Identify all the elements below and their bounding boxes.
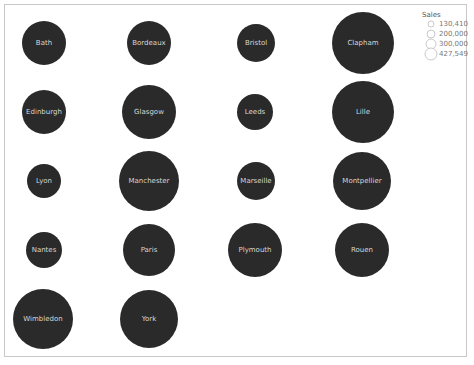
- bubble-label: Glasgow: [134, 108, 164, 116]
- legend-item-label: 427,549: [439, 50, 468, 58]
- bubble-label: Leeds: [245, 108, 266, 116]
- legend-title: Sales: [422, 11, 441, 19]
- bubble-label: Wimbledon: [23, 315, 62, 323]
- legend-size-circle-icon: [425, 48, 437, 60]
- bubble-marseille[interactable]: Marseille: [237, 162, 275, 200]
- bubble-manchester[interactable]: Manchester: [119, 151, 179, 211]
- bubble-label: Rouen: [351, 246, 373, 254]
- bubble-label: Plymouth: [238, 246, 271, 254]
- bubble-glasgow[interactable]: Glasgow: [122, 85, 176, 139]
- bubble-label: York: [141, 315, 158, 323]
- bubble-clapham[interactable]: Clapham: [332, 12, 394, 74]
- bubble-lyon[interactable]: Lyon: [27, 164, 61, 198]
- bubble-label: Bristol: [245, 39, 267, 47]
- bubble-bath[interactable]: Bath: [22, 21, 66, 65]
- bubble-plymouth[interactable]: Plymouth: [228, 223, 282, 277]
- bubble-label: Manchester: [129, 177, 170, 185]
- bubble-paris[interactable]: Paris: [123, 224, 175, 276]
- bubble-label: Nantes: [32, 246, 57, 254]
- legend-item-label: 300,000: [439, 40, 468, 48]
- legend-item: 200,000: [427, 30, 468, 38]
- bubble-label: Paris: [141, 246, 158, 254]
- legend-item: 300,000: [426, 39, 468, 49]
- legend: Sales 130,410200,000300,000427,549: [422, 11, 468, 60]
- bubble-chart: BathBordeauxBristolClaphamEdinburghGlasg…: [0, 0, 474, 365]
- bubble-label: Marseille: [240, 177, 271, 185]
- bubble-montpellier[interactable]: Montpellier: [333, 152, 391, 210]
- legend-item: 427,549: [425, 48, 468, 60]
- bubble-label: Lyon: [36, 177, 52, 185]
- bubble-label: Bath: [36, 39, 52, 47]
- legend-item-label: 200,000: [439, 30, 468, 38]
- bubble-label: Clapham: [347, 39, 378, 47]
- bubble-bordeaux[interactable]: Bordeaux: [127, 21, 171, 65]
- legend-size-circle-icon: [427, 30, 435, 38]
- bubble-label: Lille: [356, 108, 370, 116]
- bubble-edinburgh[interactable]: Edinburgh: [22, 90, 66, 134]
- legend-size-circle-icon: [426, 39, 436, 49]
- legend-size-circle-icon: [428, 21, 434, 27]
- bubble-bristol[interactable]: Bristol: [237, 24, 275, 62]
- bubble-nantes[interactable]: Nantes: [26, 232, 62, 268]
- bubble-rouen[interactable]: Rouen: [335, 223, 389, 277]
- bubble-leeds[interactable]: Leeds: [237, 94, 273, 130]
- bubble-label: Montpellier: [342, 177, 381, 185]
- legend-item: 130,410: [428, 20, 468, 28]
- bubbles-group: BathBordeauxBristolClaphamEdinburghGlasg…: [13, 12, 394, 349]
- bubble-wimbledon[interactable]: Wimbledon: [13, 289, 73, 349]
- bubble-lille[interactable]: Lille: [332, 81, 394, 143]
- bubble-label: Edinburgh: [26, 108, 62, 116]
- bubble-label: Bordeaux: [132, 39, 165, 47]
- legend-item-label: 130,410: [439, 20, 468, 28]
- bubble-york[interactable]: York: [120, 290, 178, 348]
